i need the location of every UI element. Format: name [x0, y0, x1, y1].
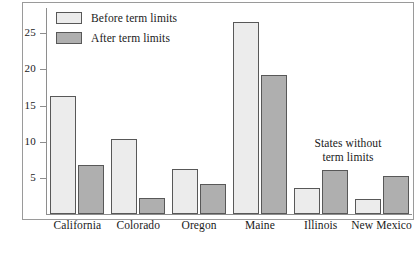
y-tick-label: 10 [10, 136, 36, 147]
chart-figure: 510152025 CaliforniaColoradoOregonMaineI… [0, 0, 416, 254]
category-label-illinois: Illinois [290, 219, 351, 232]
y-tick-mark [40, 33, 47, 34]
bar-new-mexico-before [355, 199, 381, 214]
legend-swatch-before-icon [56, 12, 82, 24]
category-label-oregon: Oregon [169, 219, 230, 232]
bar-illinois-after [322, 170, 348, 214]
x-axis-line [46, 214, 412, 215]
y-tick-mark [40, 106, 47, 107]
bar-maine-before [233, 22, 259, 214]
bar-california-after [78, 165, 104, 214]
legend-swatch-after-icon [56, 32, 82, 44]
y-tick-mark [40, 178, 47, 179]
legend-item-after: After term limits [56, 29, 177, 46]
bar-california-before [50, 96, 76, 214]
chart-legend: Before term limits After term limits [56, 9, 177, 49]
y-tick-label: 15 [10, 100, 36, 111]
bar-maine-after [261, 75, 287, 215]
legend-item-before: Before term limits [56, 9, 177, 26]
legend-label-before: Before term limits [91, 12, 177, 24]
category-label-california: California [47, 219, 108, 232]
bar-colorado-before [111, 139, 137, 214]
category-label-colorado: Colorado [108, 219, 169, 232]
category-label-maine: Maine [230, 219, 291, 232]
y-tick-mark [40, 142, 47, 143]
bar-illinois-before [294, 188, 320, 214]
category-label-new-mexico: New Mexico [351, 219, 412, 232]
bar-colorado-after [139, 198, 165, 214]
annotation-line-2: term limits [296, 150, 400, 164]
chart-annotation: States without term limits [296, 136, 400, 164]
legend-label-after: After term limits [91, 32, 170, 44]
bar-new-mexico-after [383, 176, 409, 214]
bar-oregon-after [200, 184, 226, 214]
annotation-line-1: States without [296, 136, 400, 150]
y-tick-label: 25 [10, 27, 36, 38]
y-tick-mark [40, 69, 47, 70]
y-tick-label: 20 [10, 63, 36, 74]
y-tick-label: 5 [10, 172, 36, 183]
bar-oregon-before [172, 169, 198, 214]
